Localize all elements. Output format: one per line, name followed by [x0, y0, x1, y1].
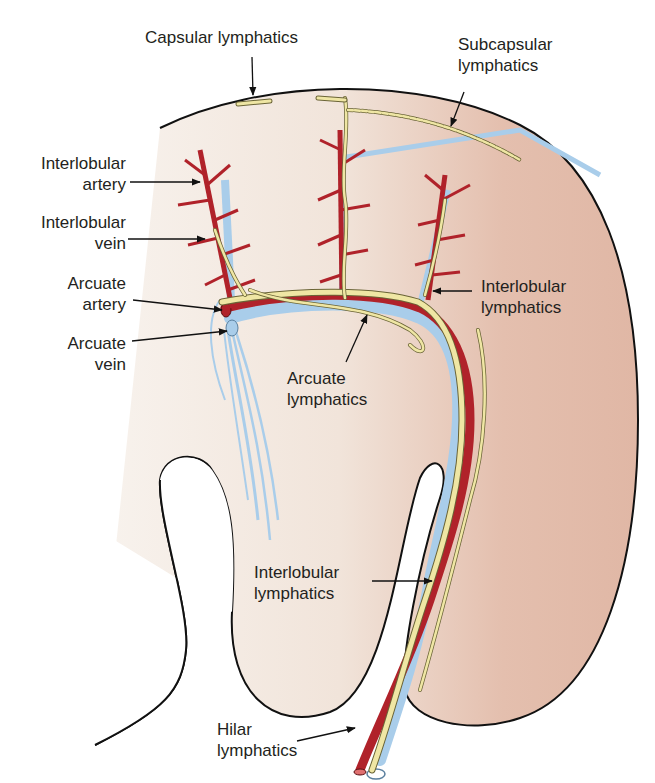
label-interlobular-artery: Interlobular artery	[14, 153, 126, 195]
label-subcapsular-lymphatics: Subcapsular lymphatics	[458, 34, 553, 76]
label-arcuate-vein: Arcuate vein	[14, 333, 126, 375]
label-capsular-lymphatics: Capsular lymphatics	[145, 27, 298, 48]
label-arcuate-artery: Arcuate artery	[14, 273, 126, 315]
label-hilar-lymphatics: Hilar lymphatics	[217, 719, 297, 761]
label-interlobular-vein: Interlobular vein	[14, 212, 126, 254]
label-arcuate-lymphatics: Arcuate lymphatics	[287, 368, 367, 410]
label-interlobular-lymphatics-upper: Interlobular lymphatics	[481, 276, 566, 318]
label-interlobular-lymphatics-lower: Interlobular lymphatics	[254, 562, 339, 604]
